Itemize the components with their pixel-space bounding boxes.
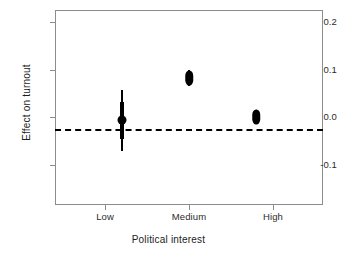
- chart-figure: 0.2 0.1 0.0 -0.1 Low Medium High Politic…: [0, 0, 337, 257]
- x-tick-mark-medium: [189, 205, 190, 210]
- point-estimate-medium: [185, 71, 193, 86]
- point-estimate-low: [118, 116, 127, 125]
- plot-data-area: [55, 10, 323, 205]
- x-tick-mark-high: [273, 205, 274, 210]
- x-tick-mark-low: [105, 205, 106, 210]
- y-axis-title: Effect on turnout: [21, 28, 32, 178]
- x-tick-label-high: High: [228, 211, 318, 222]
- zero-reference-line: [55, 129, 323, 131]
- x-axis-title: Political interest: [0, 234, 337, 245]
- point-estimate-high: [252, 109, 260, 124]
- x-tick-label-medium: Medium: [144, 211, 234, 222]
- x-tick-label-low: Low: [60, 211, 150, 222]
